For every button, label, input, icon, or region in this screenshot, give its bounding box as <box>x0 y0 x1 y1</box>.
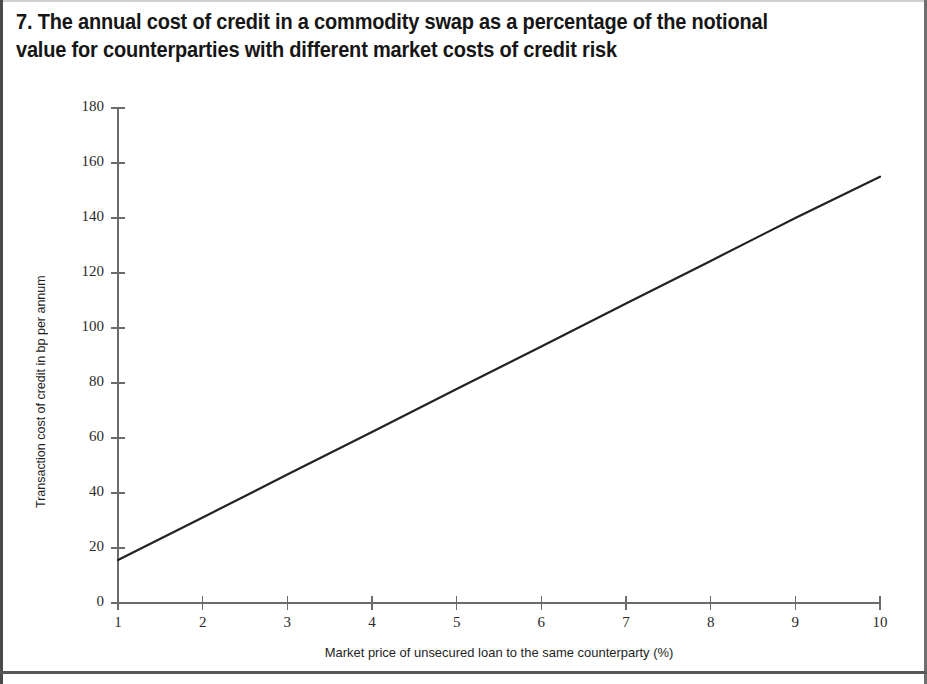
plot-area: 020406080100120140160180 12345678910 Tra… <box>0 0 927 684</box>
x-tick-label: 10 <box>865 614 895 631</box>
axes-group <box>118 107 880 603</box>
x-tick-label: 3 <box>272 614 302 631</box>
x-tick-label: 1 <box>103 614 133 631</box>
x-tick-label: 8 <box>696 614 726 631</box>
data-series-group <box>118 177 880 560</box>
y-tick-label: 100 <box>58 318 104 335</box>
figure-panel: 7. The annual cost of credit in a commod… <box>0 0 927 684</box>
y-tick-label: 140 <box>58 208 104 225</box>
x-tick-label: 9 <box>780 614 810 631</box>
x-tick-label: 2 <box>188 614 218 631</box>
x-tick-label: 5 <box>442 614 472 631</box>
series-line-0 <box>118 177 880 560</box>
axis-ticks-group <box>111 108 880 610</box>
y-tick-label: 60 <box>58 428 104 445</box>
y-tick-label: 180 <box>58 98 104 115</box>
y-axis-title: Transaction cost of credit in bp per ann… <box>33 208 48 508</box>
x-tick-label: 7 <box>611 614 641 631</box>
y-tick-label: 40 <box>58 483 104 500</box>
y-tick-label: 0 <box>58 593 104 610</box>
y-tick-label: 120 <box>58 263 104 280</box>
x-axis-title: Market price of unsecured loan to the sa… <box>133 645 865 660</box>
y-tick-label: 20 <box>58 538 104 555</box>
y-tick-label: 160 <box>58 153 104 170</box>
x-tick-label: 6 <box>526 614 556 631</box>
x-tick-label: 4 <box>357 614 387 631</box>
y-tick-label: 80 <box>58 373 104 390</box>
chart-svg <box>0 0 927 684</box>
y-axis-title-text: Transaction cost of credit in bp per ann… <box>33 220 48 508</box>
